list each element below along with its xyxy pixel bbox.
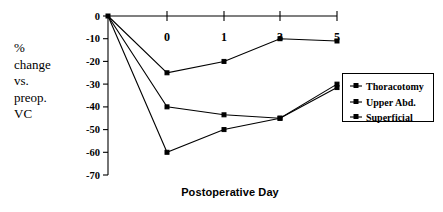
series-line: [108, 16, 337, 73]
y-tick-label-0: 0: [95, 11, 100, 22]
legend-label-upper-abd: Upper Abd.: [366, 97, 416, 108]
data-point-marker: [165, 105, 169, 109]
data-point-marker: [165, 150, 169, 154]
data-point-marker: [335, 39, 339, 43]
legend-marker-icon: [354, 84, 358, 88]
legend-marker-icon: [354, 100, 358, 104]
x-tick-label-1: 1: [221, 30, 227, 44]
y-axis-tick-labels: 0 -10 -20 -30 -40 -50 -60 -70: [86, 11, 100, 181]
legend-label-superficial: Superficial: [366, 112, 413, 123]
chart-figure: % change vs. preop. VC 0 -10 -20 -30 -40…: [0, 0, 443, 212]
series-thoracotomy: [108, 16, 339, 75]
y-tick-label-7: -70: [86, 170, 100, 181]
y-tick-label-5: -50: [86, 124, 100, 135]
x-axis-tick-labels: 0 1 3 5: [164, 30, 340, 44]
y-tick-label-1: -10: [86, 33, 100, 44]
y-tick-label-3: -30: [86, 79, 100, 90]
x-tick-label-0: 0: [164, 30, 170, 44]
data-point-marker: [335, 86, 339, 90]
origin-marker: [106, 14, 110, 18]
x-axis-title: Postoperative Day: [120, 186, 340, 198]
legend-marker-icon: [354, 115, 358, 119]
data-point-marker: [222, 128, 226, 132]
chart-canvas: 0 -10 -20 -30 -40 -50 -60 -70 0 1 3 5: [0, 0, 443, 212]
legend-label-thoracotomy: Thoracotomy: [366, 81, 424, 92]
y-tick-label-6: -60: [86, 147, 100, 158]
y-tick-label-4: -40: [86, 101, 100, 112]
data-point-marker: [165, 71, 169, 75]
data-point-marker: [222, 59, 226, 63]
data-point-marker: [278, 37, 282, 41]
data-point-marker: [278, 116, 282, 120]
data-point-marker: [222, 113, 226, 117]
y-tick-label-2: -20: [86, 56, 100, 67]
chart-legend: Thoracotomy Upper Abd. Superficial: [343, 74, 434, 123]
y-axis-ticks: [103, 16, 108, 175]
